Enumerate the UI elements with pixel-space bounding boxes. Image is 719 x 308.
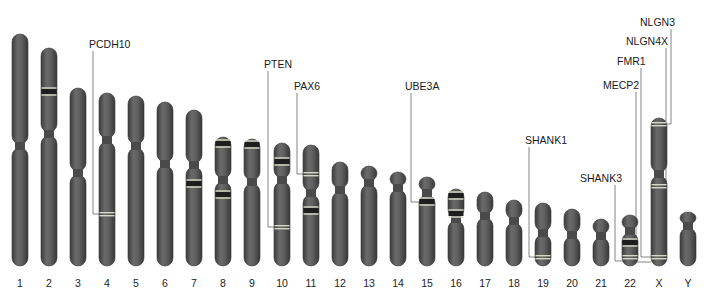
light-band: [652, 187, 667, 188]
centromere: [306, 189, 316, 197]
chromosome-5: [128, 96, 144, 266]
chromosome-6: [157, 102, 173, 266]
light-band: [652, 125, 667, 126]
chromosome-label-5: 5: [121, 277, 151, 289]
band-halo: [216, 197, 231, 199]
band-halo: [245, 147, 260, 149]
chromosome-19: [535, 203, 551, 266]
p-arm: [70, 88, 86, 171]
band-halo: [216, 190, 231, 192]
light-band: [623, 255, 638, 256]
chromosome-20: [564, 209, 580, 266]
dark-band: [623, 240, 638, 245]
band-halo: [216, 139, 231, 141]
chromosome-14: [390, 172, 406, 266]
centromere: [73, 169, 83, 177]
light-band: [304, 175, 319, 176]
chromosome-label-12: 12: [325, 277, 355, 289]
chromosome-label-3: 3: [63, 277, 93, 289]
centromere: [393, 184, 403, 192]
light-band: [100, 215, 115, 216]
light-band: [304, 172, 319, 173]
p-arm: [128, 96, 144, 144]
q-arm: [70, 175, 86, 266]
q-arm: [244, 184, 260, 266]
q-arm: [535, 235, 551, 266]
p-arm: [12, 34, 28, 144]
chromosome-12: [332, 162, 348, 266]
centromere: [567, 231, 577, 239]
gene-label-pten: PTEN: [264, 58, 292, 70]
chromosome-9: [244, 139, 260, 266]
leader-line-pax6: [297, 93, 303, 174]
leader-line-pten: [268, 71, 274, 227]
dark-band: [449, 193, 464, 198]
centromere: [15, 142, 25, 150]
p-arm: [390, 172, 406, 186]
band-halo: [216, 146, 231, 148]
p-arm: [535, 203, 551, 231]
centromere: [683, 222, 693, 230]
leader-line-ube3a: [411, 93, 419, 202]
centromere: [509, 217, 519, 225]
chromosome-17: [477, 192, 493, 266]
chromosome-label-14: 14: [383, 277, 413, 289]
centromere: [102, 136, 112, 144]
band-halo: [304, 206, 319, 208]
dark-band: [275, 159, 290, 164]
leader-line-mecp2: [636, 92, 651, 262]
chromosome-label-7: 7: [179, 277, 209, 289]
leader-line-pcdh10: [93, 51, 99, 214]
gene-label-ube3a: UBE3A: [405, 80, 439, 92]
chromosome-2: [41, 48, 57, 266]
chromosome-10: [274, 143, 290, 266]
dark-band: [187, 181, 202, 186]
q-arm: [477, 218, 493, 266]
p-arm: [361, 166, 377, 181]
band-halo: [304, 213, 319, 215]
q-arm: [303, 195, 319, 266]
p-arm: [477, 192, 493, 214]
chromosome-label-19: 19: [528, 277, 558, 289]
light-band: [623, 258, 638, 259]
light-band: [652, 184, 667, 185]
q-arm: [651, 176, 667, 266]
gene-label-nlgn3: NLGN3: [640, 16, 675, 28]
p-arm: [564, 209, 580, 233]
dark-band: [304, 208, 319, 213]
leader-line-shank3: [615, 185, 622, 261]
q-arm: [12, 148, 28, 266]
karyotype-diagram: 12345678910111213141516171819202122XY PC…: [0, 0, 719, 308]
p-arm: [186, 110, 202, 163]
chromosome-4: [99, 93, 115, 266]
chromosome-22: [622, 215, 638, 266]
band-halo: [275, 164, 290, 166]
light-band: [536, 255, 551, 256]
chromosome-label-21: 21: [586, 277, 616, 289]
chromosome-label-6: 6: [150, 277, 180, 289]
light-band: [100, 212, 115, 213]
chromosome-label-4: 4: [92, 277, 122, 289]
band-halo: [420, 204, 435, 206]
chromosome-label-16: 16: [441, 277, 471, 289]
leader-line-fmr1: [641, 68, 651, 257]
q-arm: [99, 142, 115, 266]
gene-label-fmr1: FMR1: [617, 55, 646, 67]
chromosome-label-2: 2: [34, 277, 64, 289]
p-arm: [622, 215, 638, 229]
q-arm: [157, 166, 173, 266]
band-halo: [420, 197, 435, 199]
light-band: [275, 225, 290, 226]
centromere: [480, 212, 490, 220]
chromosome-21: [593, 219, 609, 266]
q-arm: [361, 185, 377, 266]
gene-label-pax6: PAX6: [294, 80, 320, 92]
dark-band: [245, 142, 260, 147]
dark-band: [216, 141, 231, 146]
centromere: [654, 170, 664, 178]
centromere: [335, 186, 345, 194]
chromosomes: [12, 34, 696, 266]
centromere: [218, 176, 228, 184]
centromere: [247, 178, 257, 186]
p-arm: [506, 200, 522, 219]
